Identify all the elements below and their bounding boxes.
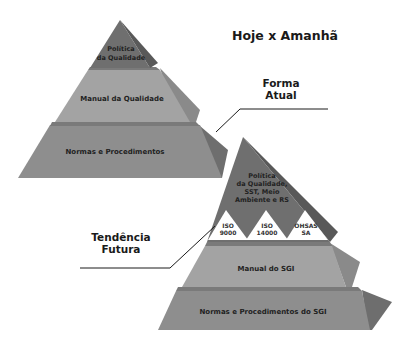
- standard-ohsas-sa-line1: OHSAS: [294, 222, 317, 229]
- future-apex-label-line3: SST, Meio: [245, 188, 280, 196]
- future-apex-label-line1: Política: [248, 172, 275, 180]
- callout-current-line1: Forma: [262, 77, 299, 89]
- standard-ohsas-sa-line2: SA: [302, 229, 311, 236]
- future-base-ledge: [176, 287, 362, 291]
- future-tier-middle: Manual do SGI: [182, 242, 360, 287]
- current-apex-label-line1: Política: [107, 45, 134, 53]
- standard-iso-9000-line2: 9000: [220, 229, 237, 236]
- callout-current-leader-line: [216, 109, 328, 132]
- future-tier-base: Normas e Procedimentos do SGI: [158, 287, 392, 330]
- current-middle-label: Manual da Qualidade: [80, 95, 164, 103]
- standard-iso-14000-line2: 14000: [257, 229, 278, 236]
- future-apex-label-line2: da Qualidade,: [237, 180, 288, 188]
- diagram-title: Hoje x Amanhã: [232, 28, 338, 43]
- current-tier-apex: Política da Qualidade: [90, 20, 158, 68]
- future-middle-ledge: [205, 242, 332, 246]
- callout-future-line2: Futura: [102, 243, 141, 255]
- current-base-ledge: [50, 122, 200, 126]
- callout-current-line2: Atual: [265, 89, 296, 101]
- current-pyramid: Normas e Procedimentos Manual da Qualida…: [18, 20, 228, 178]
- current-apex-label-line2: da Qualidade: [97, 54, 146, 62]
- future-apex-label-line4: Ambiente e RS: [235, 196, 289, 204]
- pyramid-diagram: Hoje x Amanhã Normas e Procedimentos Man…: [0, 0, 413, 347]
- diagram-canvas: Hoje x Amanhã Normas e Procedimentos Man…: [0, 0, 413, 347]
- callout-future: Tendência Futura: [80, 226, 215, 268]
- current-tier-base: Normas e Procedimentos: [18, 122, 228, 178]
- current-base-label: Normas e Procedimentos: [66, 148, 165, 156]
- future-middle-label: Manual do SGI: [238, 265, 295, 273]
- future-base-label: Normas e Procedimentos do SGI: [199, 308, 326, 316]
- standard-iso-14000-line1: ISO: [261, 222, 273, 229]
- standard-iso-9000-line1: ISO: [222, 222, 234, 229]
- callout-current: Forma Atual: [216, 77, 328, 132]
- callout-future-line1: Tendência: [91, 231, 150, 243]
- current-tier-middle: Manual da Qualidade: [55, 67, 200, 122]
